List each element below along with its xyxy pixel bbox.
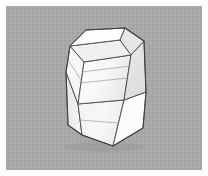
render-viewport: Shaded 3D polyhedral rendering of an ope… xyxy=(0,0,208,176)
three-d-render-canvas xyxy=(0,0,208,176)
contact-shadow xyxy=(64,142,144,152)
face-upper-front xyxy=(78,55,131,104)
mesh-faces-group xyxy=(66,28,146,146)
